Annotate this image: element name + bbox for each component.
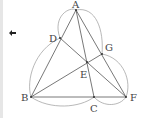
arc-b-c — [31, 97, 94, 106]
segment-af — [76, 10, 126, 97]
point-e — [86, 61, 88, 63]
label-a: A — [71, 0, 80, 10]
label-b: B — [21, 92, 28, 103]
point-b — [30, 96, 32, 98]
label-g: G — [105, 42, 113, 53]
segment-df — [60, 38, 126, 97]
segment-ab — [31, 10, 76, 97]
label-c: C — [90, 103, 98, 114]
geometry-diagram: A D G E B C F — [0, 0, 144, 118]
label-d: D — [49, 33, 57, 44]
segment-ac — [76, 10, 94, 97]
segment-bg — [31, 54, 102, 97]
point-g — [101, 53, 103, 55]
arc-c-f — [94, 97, 126, 105]
point-d — [59, 37, 61, 39]
arc-d-b — [30, 38, 60, 97]
arc-d-a — [58, 9, 76, 38]
label-f: F — [130, 92, 137, 103]
left-arrow-icon[interactable] — [9, 30, 16, 36]
label-e: E — [80, 69, 87, 80]
arc-g-f — [102, 54, 128, 97]
point-c — [93, 96, 95, 98]
segments — [31, 10, 126, 97]
point-f — [125, 96, 127, 98]
